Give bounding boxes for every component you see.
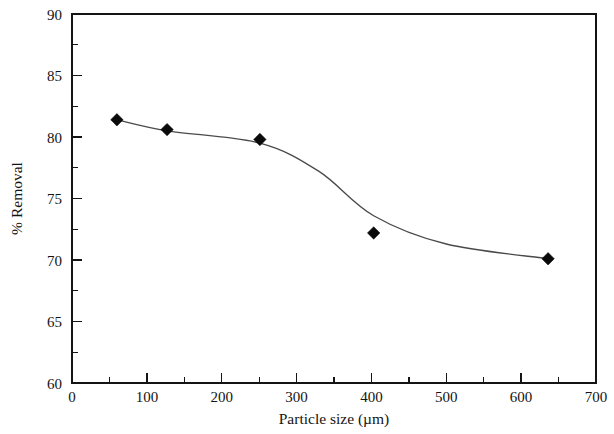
y-tick-label: 90 [47,7,62,23]
y-tick-label: 60 [47,376,62,392]
chart-figure: 90 85 80 75 70 65 60 0 100 200 300 400 5… [0,0,614,434]
y-tick-label: 70 [47,253,62,269]
x-tick-label: 600 [510,389,533,405]
y-tick-label: 80 [47,130,62,146]
x-tick-label: 100 [136,389,159,405]
x-tick-label: 0 [68,389,76,405]
chart-background [0,0,614,434]
x-tick-label: 700 [585,389,608,405]
chart-canvas: 90 85 80 75 70 65 60 0 100 200 300 400 5… [0,0,614,434]
y-tick-label: 85 [47,68,62,84]
y-tick-label: 75 [47,191,62,207]
x-tick-label: 200 [210,389,233,405]
y-axis-title: % Removal [8,162,25,235]
x-tick-label: 300 [285,389,308,405]
x-axis-title: Particle size (µm) [279,410,390,428]
x-tick-label: 400 [360,389,383,405]
x-tick-label: 500 [435,389,458,405]
y-tick-label: 65 [47,314,62,330]
